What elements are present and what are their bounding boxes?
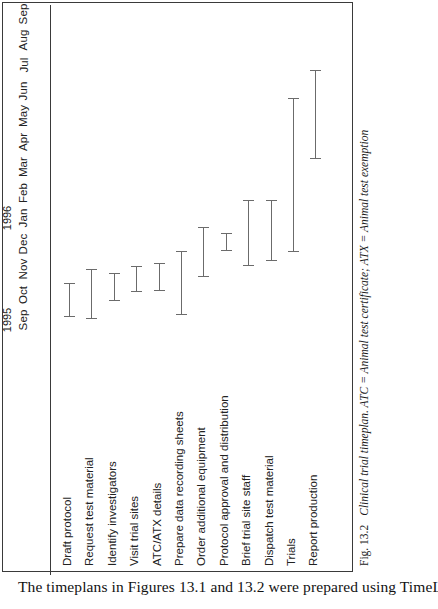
task-label: Report production	[307, 475, 319, 566]
figure-caption-text: Clinical trial timeplan. ATC = Animal te…	[358, 130, 370, 516]
gantt-bar	[64, 283, 75, 317]
gantt-bar	[310, 70, 321, 159]
month-tick-text: Jul	[17, 57, 29, 72]
gantt-bar	[176, 251, 187, 315]
month-tick-text: Oct	[17, 285, 29, 303]
gantt-bar-start-cap	[154, 290, 165, 291]
gantt-bar-start-cap	[288, 251, 299, 252]
month-tick-label: Jun	[0, 79, 47, 103]
gantt-bar-start-cap	[198, 276, 209, 277]
month-tick-text: Sep	[17, 4, 29, 25]
gantt-bar-start-cap	[243, 265, 254, 266]
task-label: Identify investigators	[106, 461, 118, 566]
gantt-bar-start-cap	[266, 260, 277, 261]
task-label: Visit trial sites	[128, 496, 140, 566]
task-label: Dispatch test material	[263, 455, 275, 566]
month-tick-label: Aug	[0, 28, 47, 52]
gantt-bar-stem	[136, 266, 137, 292]
task-label: Brief trial site staff	[240, 475, 252, 566]
month-tick-text: Mar	[17, 157, 29, 177]
gantt-bar	[221, 233, 232, 251]
task-label: ATC/ATX details	[151, 483, 163, 566]
task-label: Protocol approval and distribution	[218, 395, 230, 566]
gantt-bar-start-cap	[86, 318, 97, 319]
gantt-bar-stem	[248, 200, 249, 266]
month-tick-text: Feb	[18, 182, 30, 202]
task-label: Order additional equipment	[195, 427, 207, 566]
month-tick-text: May	[18, 105, 30, 127]
month-tick-label: Oct	[0, 283, 47, 307]
month-tick-text: Jun	[18, 81, 30, 100]
gantt-bar-start-cap	[176, 314, 187, 315]
task-label-column: Draft protocolRequest test materialIdent…	[48, 392, 351, 570]
month-tick-text: Apr	[17, 132, 29, 150]
gantt-bar	[154, 263, 165, 291]
year-label: 1996	[0, 206, 44, 230]
gantt-bar-stem	[315, 70, 316, 159]
task-label: Request test material	[83, 457, 95, 566]
month-tick-text: Dec	[17, 233, 29, 254]
gantt-bar	[131, 266, 142, 292]
month-tick-label: Feb	[0, 181, 47, 205]
task-label: Trials	[285, 538, 297, 566]
gantt-bar-start-cap	[109, 300, 120, 301]
gantt-bar-stem	[293, 98, 294, 252]
gantt-bar-start-cap	[64, 316, 75, 317]
task-label: Prepare data recording sheets	[173, 411, 185, 566]
month-tick-label: Apr	[0, 130, 47, 154]
gantt-bar-start-cap	[131, 291, 142, 292]
gantt-bar	[243, 200, 254, 266]
gantt-bar	[288, 98, 299, 252]
month-tick-text: Nov	[17, 259, 29, 280]
gantt-bar-start-cap	[221, 250, 232, 251]
gantt-bar-stem	[226, 233, 227, 251]
year-label: 1995	[0, 308, 44, 332]
month-tick-label: Nov	[0, 257, 47, 281]
month-tick-text: Aug	[17, 29, 29, 50]
month-tick-label: Sep	[0, 2, 47, 26]
gantt-bar-stem	[91, 269, 92, 319]
month-axis: SepOctNovDecJanFebMarAprMayJunJulAugSep1…	[0, 0, 47, 572]
gantt-bar-stem	[159, 263, 160, 291]
gantt-bar-stem	[271, 200, 272, 261]
month-tick-label: May	[0, 104, 47, 128]
page-body-text: The timeplans in Figures 13.1 and 13.2 w…	[18, 578, 430, 596]
month-tick-label: Jul	[0, 53, 47, 77]
year-label-text: 1995	[2, 308, 14, 332]
figure-number: Fig. 13.2	[358, 525, 370, 566]
gantt-bar	[109, 273, 120, 301]
gantt-bar-start-cap	[310, 158, 321, 159]
gantt-bar-stem	[181, 251, 182, 315]
month-tick-label: Dec	[0, 232, 47, 256]
task-label: Draft protocol	[61, 497, 73, 566]
gantt-bar-stem	[203, 227, 204, 277]
year-label-text: 1996	[2, 206, 14, 230]
gantt-bar	[86, 269, 97, 319]
month-tick-label: Mar	[0, 155, 47, 179]
gantt-bar	[266, 200, 277, 261]
figure-caption: Fig. 13.2Clinical trial timeplan. ATC = …	[356, 0, 436, 572]
gantt-bar-stem	[114, 273, 115, 301]
gantt-bar	[198, 227, 209, 277]
gantt-bar-stem	[69, 283, 70, 317]
